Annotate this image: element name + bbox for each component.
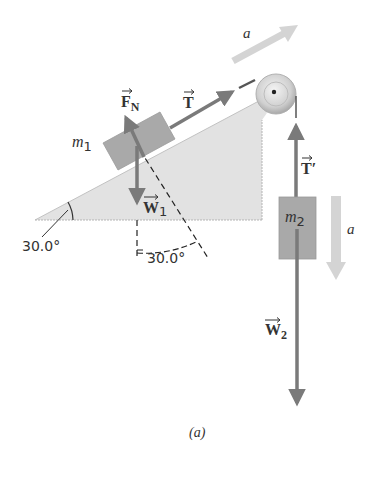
block-m1-label: m1 <box>72 133 92 154</box>
tension-label: T <box>183 90 194 112</box>
normal-force-label: FN <box>121 89 140 115</box>
atwood-incline-diagram: 30.0° a m1 T 30.0° FN W1 T <box>0 0 381 479</box>
incline-angle-label: 30.0° <box>22 238 60 254</box>
weight2-label: W2 <box>265 318 287 343</box>
figure-caption: (a) <box>189 425 206 441</box>
svg-text:W2: W2 <box>265 321 287 342</box>
acceleration-arrow-hanging <box>326 196 346 280</box>
acceleration-label-hanging: a <box>347 221 355 237</box>
tension-prime-label: T′ <box>301 156 316 178</box>
svg-text:T′: T′ <box>301 160 316 177</box>
svg-text:T: T <box>183 94 194 111</box>
pulley <box>256 74 296 114</box>
w1-normal-angle-label: 30.0° <box>147 250 185 266</box>
svg-text:FN: FN <box>121 93 140 114</box>
acceleration-label-incline: a <box>243 25 251 41</box>
rope-dash <box>239 80 255 88</box>
